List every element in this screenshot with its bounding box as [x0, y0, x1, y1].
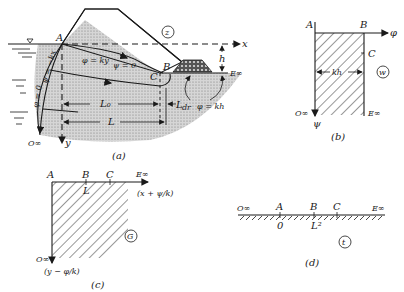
region-t-label: t	[342, 238, 346, 247]
point-E-inf-label: E∞	[229, 69, 243, 78]
vertical-axis-label: (y − φ/k)	[44, 267, 80, 276]
point-A-value: 0	[277, 220, 284, 231]
point-C-label: C	[333, 201, 341, 212]
label-psi-0: ψ = 0	[113, 61, 136, 70]
water-level-icon	[27, 39, 33, 43]
point-O-inf-label: O∞	[28, 139, 41, 148]
caption-c: (c)	[91, 279, 105, 290]
label-L0: L₀	[99, 98, 111, 109]
conformal-mapping-diagram: E∞ x y O∞ φ = ky ψ = 0	[0, 0, 404, 292]
region-G-label: G	[127, 232, 134, 241]
point-C-label: C	[368, 48, 376, 59]
panel-d: O∞ A 0 B L² C E∞ t (d)	[237, 201, 385, 268]
caption-a: (a)	[112, 150, 126, 161]
x-axis-label: x	[242, 38, 248, 49]
point-C-label: C	[150, 71, 158, 82]
horizontal-axis-label: (x + ψ/k)	[137, 189, 173, 198]
point-B-value: L²	[310, 220, 322, 231]
point-A-label: A	[46, 169, 54, 180]
point-O-inf-label: O∞	[237, 204, 250, 213]
point-A-label: A	[305, 19, 313, 30]
panel-c: A B L C E∞ (x + ψ/k) O∞ (y − φ/k) G (c)	[36, 169, 173, 290]
point-O-inf-label: O∞	[295, 109, 308, 118]
point-B-label: B	[359, 19, 367, 30]
point-A-label: A	[55, 32, 63, 43]
point-E-inf-label: E∞	[367, 109, 381, 118]
region-z-label: z	[164, 28, 170, 37]
label-L: L	[82, 185, 90, 196]
panel-b: φ ψ A B C kh w O∞ E∞ (b)	[295, 19, 397, 142]
point-B-label: B	[162, 61, 170, 72]
point-E-inf-label: E∞	[135, 170, 149, 179]
region-w-label: w	[379, 68, 386, 77]
caption-b: (b)	[331, 131, 345, 142]
point-B-label: B	[81, 169, 89, 180]
point-O-inf-label: O∞	[36, 255, 49, 264]
psi-axis-label: ψ	[313, 118, 321, 129]
water-hatch	[10, 49, 36, 124]
phi-axis-label: φ	[390, 27, 397, 38]
point-A-label: A	[275, 201, 283, 212]
point-E-inf-label: E∞	[371, 204, 385, 213]
label-kh: kh	[332, 68, 342, 77]
point-B-label: B	[309, 201, 317, 212]
G-plane-region	[52, 182, 128, 258]
y-axis-label: y	[64, 137, 71, 148]
label-Ldr-sub: dr	[182, 103, 192, 112]
label-phi-ky: φ = ky	[82, 56, 109, 65]
point-C-label: C	[106, 169, 114, 180]
gravel-drain	[173, 60, 212, 72]
label-phi-kh: φ = kh	[197, 102, 224, 111]
label-h: h	[219, 53, 225, 64]
panel-a: E∞ x y O∞ φ = ky ψ = 0	[8, 9, 248, 161]
caption-d: (d)	[305, 257, 319, 268]
label-L: L	[107, 116, 115, 127]
